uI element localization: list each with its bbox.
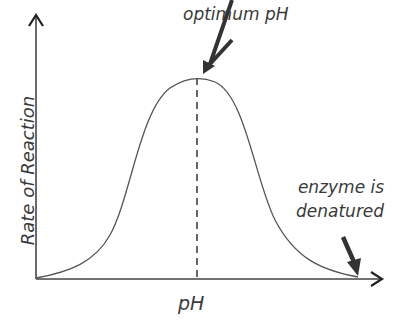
y-axis-label: Rate of Reaction [17, 91, 38, 251]
enzyme-ph-graph [0, 0, 400, 326]
denatured-label: enzyme is denatured [296, 175, 384, 223]
denatured-label-line2: denatured [296, 199, 384, 223]
denatured-label-line1: enzyme is [296, 175, 384, 199]
denatured-arrow-icon [343, 237, 361, 276]
optimum-ph-label: optimum pH [183, 4, 288, 24]
x-axis [36, 272, 382, 286]
x-axis-label: pH [178, 292, 204, 314]
